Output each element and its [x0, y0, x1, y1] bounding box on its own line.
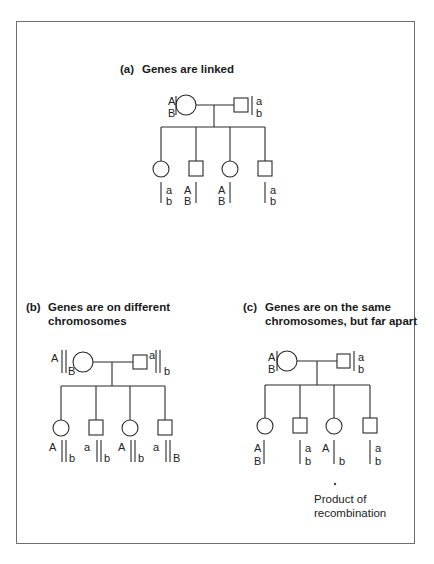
panel-a-mother-allele-label: A [168, 95, 176, 107]
panel-a-child-3-female-circle-icon [222, 161, 238, 177]
panel-b-child-2-allele-label: b [104, 452, 110, 464]
panel-b-child-4-allele-label: B [173, 452, 180, 464]
panel-a-father-square-icon [234, 98, 248, 112]
panel-a-child-4-male-square-icon [258, 161, 272, 176]
panel-c-child-1-female-circle-icon [257, 418, 273, 434]
panel-b-child-3-allele-label: A [118, 441, 126, 453]
pedigree-figure: (a)Genes are linked (b)Genes are on diff… [0, 0, 434, 564]
panel-c-father-allele-label: a [358, 351, 365, 363]
panel-a-child-2-allele-label: B [184, 195, 191, 207]
panel-b-father-allele-label: a [149, 349, 156, 361]
panel-b-child-1-allele-label: A [49, 441, 57, 453]
panel-b-child-2-male-square-icon [89, 420, 103, 435]
panel-b-father-allele-label: b [164, 365, 170, 377]
panel-a-father-allele-label: b [256, 107, 262, 119]
recombination-note: Product of recombination [314, 492, 386, 520]
panel-a-child-1-allele-label: b [166, 195, 172, 207]
panel-b-mother-allele-label: A [51, 352, 59, 364]
panel-b-child-4-allele-label: a [153, 441, 160, 453]
panel-c-child-4-male-square-icon [363, 418, 377, 433]
panel-c-child-4-allele-label: b [375, 455, 381, 467]
panel-c-father-allele-label: b [358, 363, 364, 375]
panel-b-child-1-allele-label: b [69, 452, 75, 464]
panel-a-child-3-allele-label: B [218, 195, 225, 207]
panel-c-child-1-allele-label: A [254, 442, 262, 454]
panel-b-father-square-icon [133, 355, 147, 369]
pedigree-diagrams: ABababABABabABabAbabAbaBABabABabAbab [0, 0, 434, 564]
panel-b-child-4-male-square-icon [158, 420, 172, 435]
panel-c-child-3-allele-label: b [339, 455, 345, 467]
panel-c-child-1-allele-label: B [254, 455, 261, 467]
panel-c-child-2-male-square-icon [293, 418, 307, 433]
panel-b-child-3-allele-label: b [138, 452, 144, 464]
recombination-asterisk-icon [334, 483, 336, 485]
panel-c-mother-allele-label: A [268, 351, 276, 363]
panel-b-mother-circle-icon [73, 352, 93, 372]
panel-c-child-4-allele-label: a [375, 442, 382, 454]
panel-b-mother-allele-label: B [68, 365, 75, 377]
panel-b-child-2-allele-label: a [84, 441, 91, 453]
panel-a-child-4-allele-label: b [270, 195, 276, 207]
panel-a-father-allele-label: a [256, 95, 263, 107]
panel-a-mother-allele-label: B [168, 107, 175, 119]
panel-c-child-2-allele-label: b [305, 455, 311, 467]
panel-c-father-square-icon [337, 354, 350, 368]
panel-a-child-2-male-square-icon [189, 161, 203, 176]
panel-a-mother-circle-icon [176, 95, 196, 115]
panel-b-child-3-female-circle-icon [122, 420, 138, 436]
recombination-note-line-2: recombination [314, 506, 386, 520]
panel-c-mother-circle-icon [277, 351, 297, 371]
recombination-note-line-1: Product of [314, 492, 386, 506]
panel-c-child-3-female-circle-icon [326, 418, 342, 434]
panel-c-child-2-allele-label: a [305, 442, 312, 454]
panel-c-child-3-allele-label: A [322, 442, 330, 454]
panel-c-mother-allele-label: B [268, 363, 275, 375]
panel-b-child-1-female-circle-icon [53, 420, 69, 436]
panel-a-child-1-female-circle-icon [153, 161, 169, 177]
